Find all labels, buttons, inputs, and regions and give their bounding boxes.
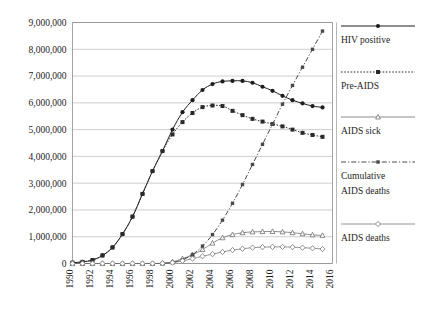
series-pre-aids	[71, 104, 325, 265]
legend-label: AIDS deaths	[341, 186, 390, 196]
data-point-marker	[210, 82, 214, 86]
data-point-marker	[291, 128, 295, 132]
data-point-marker	[310, 246, 315, 251]
x-tick-label: 2004	[205, 269, 215, 288]
data-point-marker	[230, 79, 234, 83]
data-point-marker	[221, 104, 225, 108]
series-aids-deaths	[70, 244, 325, 266]
data-point-marker	[210, 251, 215, 256]
data-point-marker	[376, 24, 380, 28]
x-tick-label: 1998	[145, 269, 155, 288]
data-point-marker	[161, 149, 165, 153]
chart-container: 01,000,0002,000,0003,000,0004,000,0005,0…	[0, 0, 422, 312]
data-point-marker	[290, 98, 294, 102]
data-point-marker	[181, 120, 185, 124]
x-tick-label: 2010	[265, 269, 275, 288]
data-point-marker	[170, 260, 175, 265]
data-point-marker	[241, 183, 244, 186]
data-point-marker	[220, 249, 225, 254]
x-tick-label: 2016	[325, 269, 335, 288]
data-point-marker	[190, 98, 194, 102]
legend-label: HIV positive	[341, 35, 390, 45]
legend-label: Pre-AIDS	[341, 81, 379, 91]
chart-legend: HIV positivePre-AIDSAIDS sickCumulativeA…	[337, 23, 416, 264]
data-point-marker	[281, 124, 285, 128]
data-point-marker	[250, 81, 254, 85]
y-tick-label: 0	[62, 259, 67, 269]
legend-item-pre-aids[interactable]: Pre-AIDS	[341, 70, 415, 91]
data-point-marker	[221, 218, 224, 221]
series-line	[73, 231, 323, 263]
legend-label: Cumulative	[341, 171, 385, 181]
data-point-marker	[280, 94, 284, 98]
data-point-marker	[200, 88, 204, 92]
data-point-marker	[121, 232, 125, 236]
data-point-marker	[211, 104, 215, 108]
y-tick-label: 5,000,000	[29, 125, 67, 135]
data-point-marker	[200, 254, 205, 259]
data-point-marker	[180, 110, 184, 114]
data-point-marker	[251, 163, 254, 166]
y-tick-label: 6,000,000	[29, 98, 67, 108]
x-tick-label: 1990	[65, 269, 75, 288]
x-tick-label: 1996	[125, 269, 135, 288]
x-tick-label: 2000	[165, 269, 175, 288]
series-line	[73, 81, 323, 263]
x-axis-tick-labels: 1990199219941996199820002002200420062008…	[65, 269, 335, 288]
legend-label: AIDS deaths	[341, 233, 390, 243]
x-tick-label: 1994	[105, 269, 115, 288]
data-point-marker	[231, 109, 235, 113]
data-point-marker	[311, 133, 315, 137]
x-tick-label: 2002	[185, 269, 195, 288]
data-point-marker	[376, 221, 381, 226]
data-point-marker	[321, 29, 324, 32]
legend-item-aids-deaths[interactable]: AIDS deaths	[341, 221, 415, 243]
data-point-marker	[210, 241, 215, 246]
data-point-marker	[280, 244, 285, 249]
data-point-marker	[310, 104, 314, 108]
y-tick-label: 1,000,000	[29, 232, 67, 242]
data-point-marker	[240, 246, 245, 251]
data-point-marker	[211, 233, 214, 236]
data-point-marker	[101, 253, 105, 257]
data-point-marker	[201, 244, 204, 247]
y-axis-tick-labels: 01,000,0002,000,0003,000,0004,000,0005,0…	[29, 18, 67, 269]
y-tick-label: 8,000,000	[29, 45, 67, 55]
data-point-marker	[270, 89, 274, 93]
data-point-marker	[300, 101, 304, 105]
data-point-marker	[290, 244, 295, 249]
data-point-marker	[201, 105, 205, 109]
legend-item-aids-sick[interactable]: AIDS sick	[341, 114, 415, 136]
y-tick-label: 7,000,000	[29, 71, 67, 81]
data-point-marker	[231, 202, 234, 205]
series-cumulative-aids-deaths	[71, 29, 324, 265]
data-point-marker	[240, 79, 244, 83]
line-chart: 01,000,0002,000,0003,000,0004,000,0005,0…	[0, 0, 422, 312]
x-tick-label: 2014	[305, 269, 315, 288]
legend-item-cumulative-aids-deaths[interactable]: CumulativeAIDS deaths	[341, 160, 415, 196]
data-point-marker	[260, 244, 265, 249]
x-tick-label: 2008	[245, 269, 255, 288]
data-point-marker	[320, 246, 325, 251]
data-point-marker	[281, 102, 284, 105]
data-point-marker	[141, 192, 145, 196]
data-point-marker	[311, 48, 314, 51]
data-point-marker	[376, 160, 379, 163]
y-tick-label: 9,000,000	[29, 18, 67, 28]
data-point-marker	[250, 245, 255, 250]
data-point-marker	[301, 131, 305, 135]
y-tick-label: 3,000,000	[29, 179, 67, 189]
data-point-marker	[301, 66, 304, 69]
data-point-marker	[271, 123, 274, 126]
x-tick-label: 2012	[285, 269, 295, 288]
data-point-marker	[151, 169, 155, 173]
data-point-marker	[270, 244, 275, 249]
gridlines	[73, 23, 333, 264]
series-line	[73, 105, 323, 262]
data-point-marker	[261, 120, 265, 124]
legend-item-hiv-positive[interactable]: HIV positive	[341, 24, 415, 45]
y-tick-label: 4,000,000	[29, 152, 67, 162]
data-point-marker	[131, 215, 135, 219]
data-point-marker	[260, 85, 264, 89]
data-point-marker	[220, 79, 224, 83]
